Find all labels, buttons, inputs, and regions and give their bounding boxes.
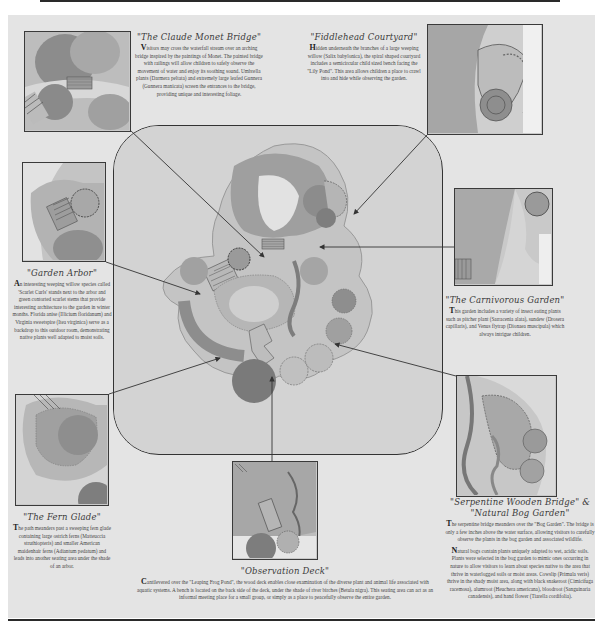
fiddlehead-title: "Fiddlehead Courtyard" [305,32,423,43]
fiddlehead-description: Hidden underneath the branches of a larg… [305,44,423,83]
bog-garden-description: Natural bogs contain plants uniquely ada… [445,547,595,601]
carnivorous-garden-title: "The Carnivorous Garden" [445,295,565,306]
fern-glade-caption: "The Fern Glade" The path meanders past … [12,512,112,571]
fern-glade-description: The path meanders past a sweeping fern g… [12,524,112,571]
garden-arbor-title: "Garden Arbor" [12,268,112,279]
fern-glade-title: "The Fern Glade" [12,512,112,523]
garden-arbor-caption: "Garden Arbor" An interesting weeping wi… [12,268,112,342]
serpentine-bridge-title-line2: "Natural Bog Garden" [445,508,595,519]
observation-deck-description: Cantilevered over the "Leaping Frog Pond… [135,578,435,602]
observation-deck-caption: "Observation Deck" Cantilevered over the… [135,566,435,602]
serpentine-bridge-description: The serpentine bridge meanders over the … [445,520,595,544]
observation-deck-title: "Observation Deck" [135,566,435,577]
garden-arbor-description: An interesting weeping willow species ca… [12,280,112,342]
monet-bridge-title: "The Claude Monet Bridge" [135,32,263,43]
fiddlehead-caption: "Fiddlehead Courtyard" Hidden underneath… [305,32,423,83]
carnivorous-garden-caption: "The Carnivorous Garden" This garden inc… [445,295,565,338]
serpentine-bridge-title-line1: "Serpentine Wooden Bridge" & [445,497,595,508]
serpentine-bridge-caption: "Serpentine Wooden Bridge" & "Natural Bo… [445,497,595,601]
monet-bridge-description: Visitors may cross the waterfall stream … [135,44,263,98]
monet-bridge-caption: "The Claude Monet Bridge" Visitors may c… [135,32,263,98]
carnivorous-garden-description: This garden includes a variety of insect… [445,307,565,338]
